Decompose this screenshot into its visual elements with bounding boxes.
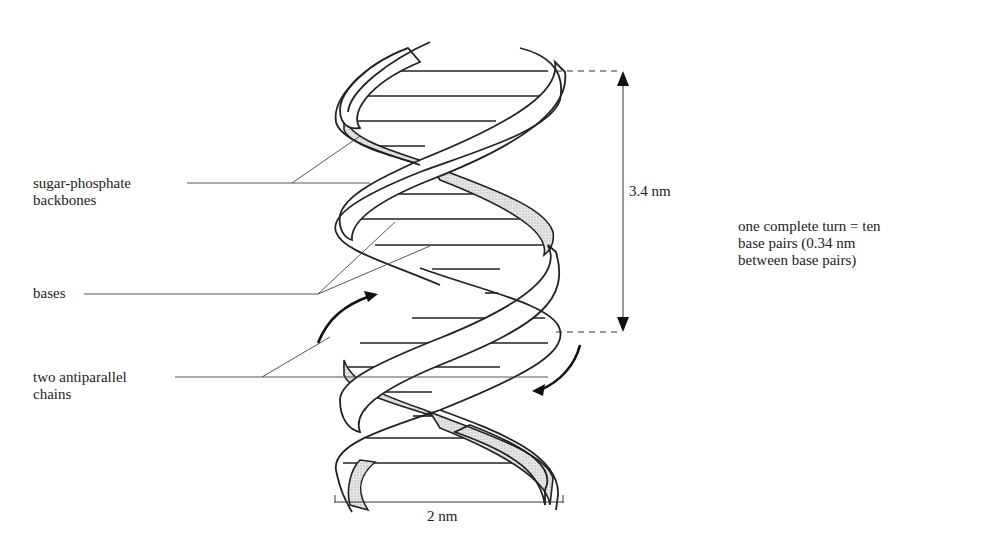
pitch-dimension xyxy=(556,71,623,332)
label-backbones: sugar-phosphate backbones xyxy=(33,175,131,209)
label-pitch: 3.4 nm xyxy=(629,183,671,200)
width-bracket xyxy=(335,495,563,503)
label-antiparallel-chains: two antiparallel chains xyxy=(33,369,127,403)
label-width: 2 nm xyxy=(427,508,457,525)
arrow-up-icon xyxy=(617,71,629,86)
label-bases: bases xyxy=(33,285,66,302)
label-turn-note: one complete turn = ten base pairs (0.34… xyxy=(738,218,881,269)
backbone-strand-front xyxy=(340,48,566,505)
arrow-down-icon xyxy=(617,317,629,332)
dna-helix-diagram xyxy=(0,0,984,545)
